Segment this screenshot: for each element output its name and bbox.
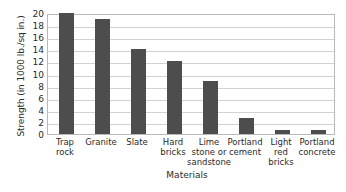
bar	[203, 81, 218, 134]
y-axis-tick-label: 4	[22, 106, 44, 115]
x-axis-tick-label-line: Portland	[293, 137, 341, 147]
y-axis-tick-label: 14	[22, 46, 44, 55]
bar	[131, 49, 146, 134]
y-axis-tick-label: 18	[22, 22, 44, 31]
bar	[95, 19, 110, 134]
x-axis-tick-label-line: bricks	[257, 157, 305, 167]
y-axis-tick-label: 6	[22, 94, 44, 103]
bars-group	[48, 15, 334, 134]
y-axis-tick-label: 20	[22, 10, 44, 19]
x-axis-title: Materials	[147, 170, 227, 180]
x-axis-tick-label-line: sandstone	[185, 157, 233, 167]
y-axis-tick-label: 10	[22, 70, 44, 79]
y-axis-tick-label: 8	[22, 82, 44, 91]
x-axis-tick-label-line: concrete	[293, 147, 341, 157]
bar	[239, 118, 254, 134]
x-axis-tick-label: Portlandconcrete	[293, 137, 341, 157]
y-axis-tick-label: 12	[22, 58, 44, 67]
bar	[275, 130, 290, 134]
bar	[167, 61, 182, 134]
bar	[311, 130, 326, 134]
x-axis-tick-label-line: rock	[41, 147, 89, 157]
bar	[59, 13, 74, 134]
y-axis-tick-label: 2	[22, 118, 44, 127]
y-axis-tick-labels: 02468101214161820	[22, 8, 44, 141]
y-axis-tick-label: 16	[22, 34, 44, 43]
plot-area	[47, 14, 335, 135]
bar-chart: Strength (in 1000 lb./sq in.) 0246810121…	[0, 0, 346, 192]
